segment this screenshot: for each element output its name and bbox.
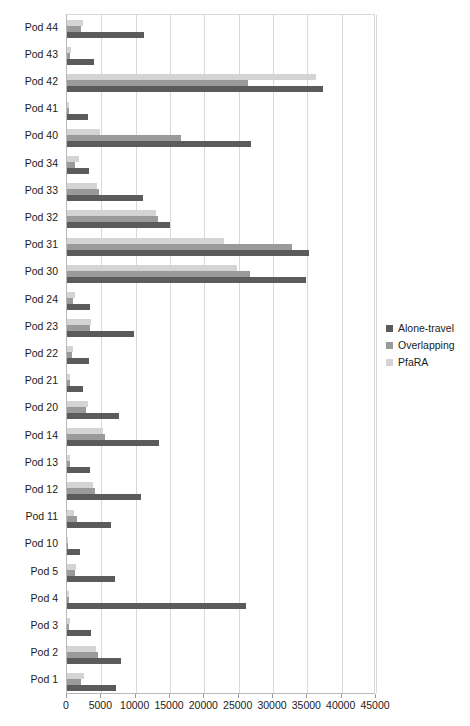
bar-group — [67, 42, 374, 69]
legend-swatch-icon — [386, 325, 393, 332]
legend-item: Alone-travel — [386, 320, 470, 336]
legend-swatch-icon — [386, 359, 393, 366]
bar-group — [67, 450, 374, 477]
bar-alone-travel — [67, 250, 309, 256]
bar-group — [67, 205, 374, 232]
category-label: Pod 32 — [25, 212, 58, 223]
bar-alone-travel — [67, 440, 159, 446]
axis-tick — [306, 694, 307, 698]
bar-alone-travel — [67, 494, 141, 500]
category-label: Pod 21 — [25, 375, 58, 386]
bar-group — [67, 586, 374, 613]
bar-group — [67, 613, 374, 640]
axis-tick — [169, 694, 170, 698]
axis-tick-label: 15000 — [154, 699, 183, 711]
axis-tick — [272, 694, 273, 698]
category-label: Pod 3 — [31, 620, 58, 631]
axis-tick-label: 45000 — [360, 699, 389, 711]
category-label: Pod 2 — [31, 647, 58, 658]
axis-tick — [66, 694, 67, 698]
bar-group — [67, 505, 374, 532]
bar-alone-travel — [67, 522, 111, 528]
bar-group — [67, 97, 374, 124]
legend-label: Alone-travel — [398, 322, 454, 334]
bar-alone-travel — [67, 413, 119, 419]
bar-group — [67, 641, 374, 668]
bar-group — [67, 668, 374, 695]
bar-alone-travel — [67, 277, 306, 283]
bar-alone-travel — [67, 386, 83, 392]
bar-group — [67, 124, 374, 151]
category-label: Pod 12 — [25, 484, 58, 495]
bar-group — [67, 423, 374, 450]
bar-group — [67, 341, 374, 368]
category-label: Pod 40 — [25, 130, 58, 141]
bar-group — [67, 287, 374, 314]
bar-alone-travel — [67, 32, 144, 38]
bar-alone-travel — [67, 86, 323, 92]
category-label: Pod 20 — [25, 402, 58, 413]
bar-alone-travel — [67, 304, 90, 310]
axis-tick — [100, 694, 101, 698]
axis-tick — [238, 694, 239, 698]
bar-group — [67, 178, 374, 205]
bar-alone-travel — [67, 168, 89, 174]
axis-tick-label: 0 — [63, 699, 69, 711]
value-axis: 0500010000150002000025000300003500040000… — [66, 694, 376, 724]
legend-swatch-icon — [386, 342, 393, 349]
axis-tick — [203, 694, 204, 698]
category-axis-labels: Pod 44Pod 43Pod 42Pod 41Pod 40Pod 34Pod … — [0, 14, 64, 694]
bar-group — [67, 369, 374, 396]
bar-group — [67, 151, 374, 178]
chart-legend: Alone-travelOverlappingPfaRA — [386, 320, 470, 371]
bar-group — [67, 260, 374, 287]
bar-group — [67, 233, 374, 260]
category-label: Pod 23 — [25, 321, 58, 332]
bar-alone-travel — [67, 59, 94, 65]
category-label: Pod 5 — [31, 566, 58, 577]
legend-item: Overlapping — [386, 337, 470, 353]
bar-alone-travel — [67, 222, 170, 228]
category-label: Pod 1 — [31, 674, 58, 685]
bar-group — [67, 396, 374, 423]
bar-alone-travel — [67, 603, 246, 609]
bar-group — [67, 69, 374, 96]
category-label: Pod 24 — [25, 294, 58, 305]
axis-tick-label: 25000 — [223, 699, 252, 711]
bar-alone-travel — [67, 576, 115, 582]
category-label: Pod 43 — [25, 49, 58, 60]
plot-area — [66, 14, 375, 694]
bar-alone-travel — [67, 685, 116, 691]
category-label: Pod 30 — [25, 266, 58, 277]
bar-group — [67, 15, 374, 42]
axis-tick-label: 20000 — [189, 699, 218, 711]
axis-tick — [341, 694, 342, 698]
bar-group — [67, 477, 374, 504]
category-label: Pod 14 — [25, 430, 58, 441]
bar-chart: Pod 44Pod 43Pod 42Pod 41Pod 40Pod 34Pod … — [0, 0, 470, 726]
category-label: Pod 42 — [25, 76, 58, 87]
bar-alone-travel — [67, 358, 89, 364]
bar-group — [67, 559, 374, 586]
category-label: Pod 22 — [25, 348, 58, 359]
bar-alone-travel — [67, 467, 90, 473]
category-label: Pod 4 — [31, 593, 58, 604]
legend-label: PfaRA — [398, 356, 428, 368]
category-label: Pod 41 — [25, 103, 58, 114]
axis-tick-label: 35000 — [292, 699, 321, 711]
category-label: Pod 11 — [26, 511, 59, 522]
axis-tick-label: 5000 — [89, 699, 112, 711]
category-label: Pod 13 — [25, 457, 58, 468]
category-label: Pod 44 — [25, 22, 58, 33]
axis-tick-label: 10000 — [120, 699, 149, 711]
bar-alone-travel — [67, 630, 91, 636]
category-label: Pod 31 — [25, 239, 58, 250]
bar-alone-travel — [67, 331, 134, 337]
axis-tick-label: 30000 — [257, 699, 286, 711]
axis-tick-label: 40000 — [326, 699, 355, 711]
bar-alone-travel — [67, 549, 80, 555]
bar-alone-travel — [67, 658, 121, 664]
legend-label: Overlapping — [398, 339, 455, 351]
bar-group — [67, 314, 374, 341]
bar-alone-travel — [67, 114, 88, 120]
